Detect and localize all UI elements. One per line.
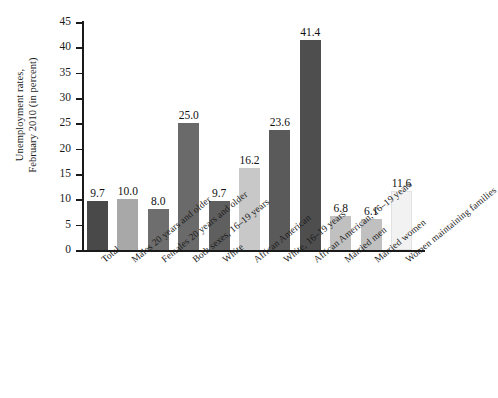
- y-tick-label: 5: [65, 218, 71, 230]
- y-tick-label: 30: [60, 91, 72, 103]
- y-tick-mark: [76, 199, 82, 201]
- y-tick-label: 10: [60, 192, 72, 204]
- y-tick-mark: [76, 225, 82, 227]
- y-tick-mark: [76, 47, 82, 49]
- y-tick-label: 45: [60, 15, 72, 27]
- y-tick-mark: [76, 123, 82, 125]
- bar[interactable]: 9.7: [87, 201, 108, 250]
- y-tick-mark: [76, 174, 82, 176]
- y-tick-label: 25: [60, 116, 72, 128]
- y-tick-mark: [76, 250, 82, 252]
- y-tick-mark: [76, 149, 82, 151]
- bar-value-label: 9.7: [212, 187, 226, 199]
- bar-value-label: 41.4: [300, 26, 320, 38]
- y-tick-label: 15: [60, 167, 72, 179]
- bar-value-label: 9.7: [90, 187, 104, 199]
- y-tick-label: 35: [60, 66, 72, 78]
- y-tick-label: 20: [60, 142, 72, 154]
- bar-value-label: 23.6: [270, 116, 290, 128]
- bar-value-label: 25.0: [179, 109, 199, 121]
- y-tick-mark: [76, 98, 82, 100]
- y-axis-title: Unemployment rates, February 2010 (in pe…: [13, 20, 53, 210]
- bar-value-label: 8.0: [151, 195, 165, 207]
- y-axis-title-line-2: February 2010 (in percent): [26, 20, 39, 210]
- bar[interactable]: 10.0: [117, 199, 138, 250]
- y-tick-label: 40: [60, 40, 72, 52]
- bar-value-label: 10.0: [118, 185, 138, 197]
- y-tick-mark: [76, 22, 82, 24]
- y-tick-mark: [76, 73, 82, 75]
- y-axis-title-line-1: Unemployment rates,: [13, 20, 26, 210]
- bar-value-label: 16.2: [239, 154, 259, 166]
- y-tick-label: 0: [65, 243, 71, 255]
